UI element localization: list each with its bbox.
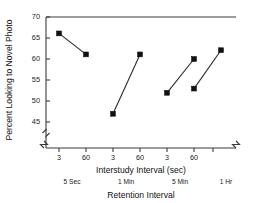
y-tick-label: 55: [32, 75, 40, 84]
group-label-5-sec: 5 Sec: [64, 178, 82, 185]
data-point-marker: [219, 48, 224, 53]
y-tick-label: 50: [32, 96, 40, 105]
y-axis-break-icon: [43, 130, 50, 137]
series-group-5-sec: [57, 31, 89, 57]
x-axis-break-right-icon: [233, 141, 240, 148]
data-point-marker: [165, 90, 170, 95]
chart-figure: Percent Looking to Novel Photo 70 65 60 …: [0, 0, 257, 203]
x-tick-label: 60: [82, 153, 90, 162]
group-label-5-min: 5 Min: [172, 178, 188, 185]
y-tick-label: 70: [32, 12, 40, 21]
data-point-marker: [138, 52, 143, 57]
series-group-1-hr: [192, 48, 224, 91]
data-point-marker: [192, 57, 197, 62]
x-tick-label: 3: [165, 153, 169, 162]
line-chart-svg: Percent Looking to Novel Photo 70 65 60 …: [0, 0, 257, 203]
data-point-marker: [57, 31, 62, 36]
x-tick-label: 3: [57, 153, 61, 162]
x-tick-label: 60: [136, 153, 144, 162]
x-tick-label: 3: [111, 153, 115, 162]
y-tick-label: 60: [32, 54, 40, 63]
x-tick-labels: 3 60 3 60 3 60: [57, 153, 198, 162]
x-ticks: [59, 148, 213, 152]
secondary-x-axis-title: Retention Interval: [107, 190, 174, 200]
x-axis-title: Interstudy Interval (sec): [96, 165, 186, 175]
y-tick-label: 65: [32, 33, 40, 42]
data-point-marker: [111, 111, 116, 116]
group-label-1-hr: 1 Hr: [220, 178, 233, 185]
x-group-labels: 5 Sec 1 Min 5 Min 1 Hr: [64, 178, 233, 185]
y-ticks: [46, 17, 50, 122]
data-point-marker: [192, 86, 197, 91]
x-tick-label: 60: [190, 153, 198, 162]
group-label-1-min: 1 Min: [118, 178, 134, 185]
data-point-marker: [84, 52, 89, 57]
series-group-1-min: [111, 52, 143, 116]
y-tick-labels: 70 65 60 55 50 45: [32, 12, 40, 126]
y-axis-title: Percent Looking to Novel Photo: [4, 19, 14, 140]
y-tick-label: 45: [32, 117, 40, 126]
